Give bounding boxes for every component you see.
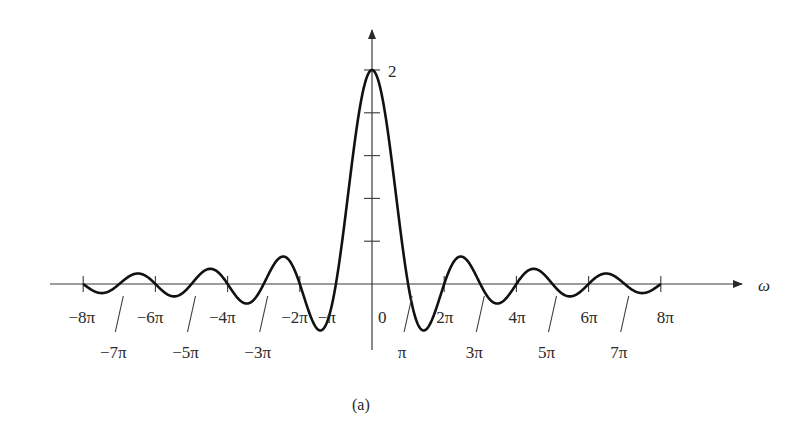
x-tick-label: 2π [436, 308, 454, 327]
x-tick-label: 8π [657, 308, 675, 327]
x-label-leader [260, 296, 268, 332]
x-tick-label: −π [318, 308, 337, 327]
x-tick-label: −3π [244, 343, 271, 362]
x-tick-label: 7π [610, 343, 628, 362]
x-tick-label: −8π [69, 308, 96, 327]
x-tick-label: −5π [172, 343, 199, 362]
x-label-leader [404, 296, 412, 332]
x-label-leader [115, 296, 123, 332]
x-tick-label: π [398, 343, 407, 362]
x-tick-label: −4π [209, 308, 236, 327]
x-axis-label: ω [758, 276, 770, 295]
x-tick-label: 4π [508, 308, 526, 327]
x-label-leader [476, 296, 484, 332]
figure-caption: (a) [352, 396, 370, 414]
x-tick-label: −7π [100, 343, 127, 362]
x-tick-label: 5π [538, 343, 556, 362]
x-label-leader [188, 296, 196, 332]
x-tick-label: 6π [581, 308, 599, 327]
x-tick-label: 3π [466, 343, 484, 362]
y-peak-label: 2 [388, 62, 397, 81]
x-label-leader [621, 296, 629, 332]
x-tick-label: 0 [378, 308, 387, 327]
x-label-leader [549, 296, 557, 332]
x-tick-label: −2π [281, 308, 308, 327]
x-tick-label: −6π [137, 308, 164, 327]
chart-canvas: 2 ω −8π−6π−4π−2π−π02π4π6π8π−7π−5π−3ππ3π5… [0, 0, 800, 432]
